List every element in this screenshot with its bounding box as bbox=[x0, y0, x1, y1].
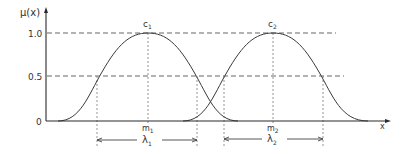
center-label-1: m1 bbox=[142, 124, 154, 134]
y-axis-arrow-icon bbox=[44, 7, 48, 13]
y-tick-0-5: 0.5 bbox=[28, 72, 42, 82]
peak-label-1: c1 bbox=[143, 19, 152, 30]
x-axis-arrow-icon bbox=[385, 119, 391, 123]
width-label-1: λ1 bbox=[142, 134, 152, 147]
width-label-2: λ2 bbox=[267, 133, 277, 146]
x-axis-label: x bbox=[380, 122, 385, 131]
membership-curve-2 bbox=[183, 33, 368, 121]
y-tick-0: 0 bbox=[36, 117, 42, 127]
peak-label-2: c2 bbox=[268, 19, 277, 30]
y-tick-1-0: 1.0 bbox=[28, 29, 43, 39]
membership-function-diagram: μ(x) x 1.0 0.5 0 c1 c2 m1 m2 λ1 λ2 bbox=[0, 0, 408, 154]
y-axis-label: μ(x) bbox=[20, 7, 40, 18]
